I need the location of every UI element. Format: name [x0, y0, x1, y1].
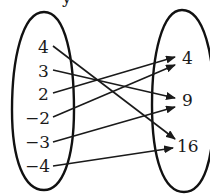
domain-value: −2: [25, 108, 50, 128]
domain-value: −3: [25, 132, 50, 152]
range-value: 16: [177, 136, 199, 156]
range-labels: 4 9 16: [177, 48, 199, 156]
domain-value: −4: [25, 156, 50, 176]
domain-labels: 4 3 2 −2 −3 −4: [25, 37, 50, 176]
domain-value: 2: [38, 84, 49, 104]
domain-value: 4: [38, 37, 49, 57]
top-partial-label: y: [61, 0, 72, 7]
range-oval: [152, 10, 210, 192]
mapping-diagram: y 4 3 2 −2 −3 −4 4 9 16: [0, 0, 210, 194]
range-value: 4: [182, 48, 193, 68]
domain-value: 3: [38, 61, 49, 81]
range-value: 9: [182, 90, 193, 110]
